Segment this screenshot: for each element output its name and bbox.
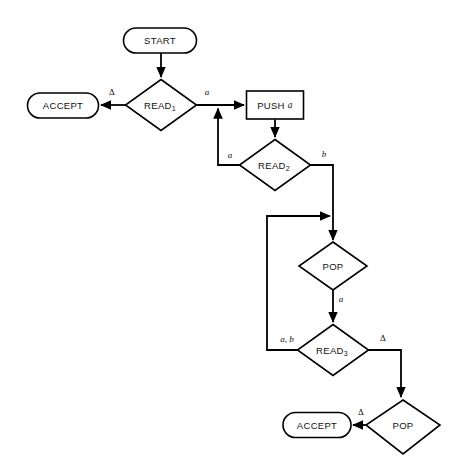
node-pop-top[interactable]: POP: [299, 242, 367, 290]
node-read2[interactable]: READ2: [240, 140, 311, 191]
node-read1[interactable]: READ1: [126, 80, 197, 131]
node-read3-subscript: 3: [344, 350, 348, 357]
node-push-a[interactable]: PUSH a: [247, 91, 304, 119]
edge-label-pop-bottom-delta: Δ: [358, 407, 364, 417]
node-start[interactable]: START: [124, 28, 197, 53]
svg-text:POP: POP: [393, 419, 414, 430]
edge-label-read2-b: b: [322, 149, 327, 159]
node-read1-label: READ: [144, 100, 172, 111]
svg-text:START: START: [144, 35, 176, 46]
node-read2-subscript: 2: [286, 165, 290, 172]
node-read1-subscript: 1: [172, 105, 176, 112]
svg-text:PUSH a: PUSH a: [257, 99, 293, 110]
svg-text:ACCEPT: ACCEPT: [43, 100, 83, 111]
node-read3-label: READ: [316, 345, 344, 356]
edge-label-pop-top-a: a: [339, 294, 344, 304]
edge-label-read3-ab: a, b: [280, 334, 294, 344]
edge-label-read1-a: a: [205, 87, 210, 97]
node-read2-label: READ: [258, 160, 286, 171]
node-accept-bottom[interactable]: ACCEPT: [283, 413, 351, 438]
edge-label-read1-delta: Δ: [109, 87, 115, 97]
edge-read3-to-pop2: [368, 350, 401, 397]
node-pop-bottom[interactable]: POP: [366, 400, 440, 454]
node-accept-top[interactable]: ACCEPT: [28, 93, 99, 118]
node-pop-bottom-label: POP: [393, 419, 414, 430]
svg-text:READ2: READ2: [258, 160, 290, 172]
node-read3[interactable]: READ3: [298, 325, 369, 376]
node-accept-top-label: ACCEPT: [43, 100, 83, 111]
flowchart-canvas: START ACCEPT READ1 PUSH a: [0, 0, 457, 476]
node-start-label: START: [144, 35, 176, 46]
svg-text:ACCEPT: ACCEPT: [297, 419, 337, 430]
flowchart-svg: START ACCEPT READ1 PUSH a: [0, 0, 457, 476]
node-push-symbol: a: [288, 100, 293, 110]
edge-label-read3-delta: Δ: [380, 333, 386, 343]
svg-text:READ3: READ3: [316, 345, 348, 357]
edge-read3-loop-to-pop1: [267, 216, 330, 350]
edge-label-read2-a: a: [228, 150, 233, 160]
svg-text:READ1: READ1: [144, 100, 176, 112]
node-push-label: PUSH: [257, 99, 285, 110]
svg-text:POP: POP: [323, 260, 344, 271]
node-accept-bottom-label: ACCEPT: [297, 419, 337, 430]
edge-read2-b-to-pop1: [310, 165, 333, 240]
node-pop-top-label: POP: [323, 260, 344, 271]
